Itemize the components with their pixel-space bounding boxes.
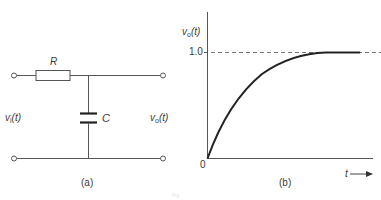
resistor-label: R (50, 57, 57, 67)
output-voltage-label: vo(t) (150, 113, 168, 124)
y-tick-1-label: 1.0 (189, 47, 203, 57)
rc-circuit (12, 71, 166, 162)
origin-label: 0 (200, 160, 206, 170)
y-axis-label: vo(t) (182, 27, 200, 38)
output-voltage-arg: (t) (159, 112, 168, 123)
input-terminal-bottom (12, 156, 17, 161)
output-terminal-bottom (161, 156, 166, 161)
step-response-plot (204, 12, 381, 177)
arrow-right-icon (366, 171, 373, 177)
capacitor-label: C (102, 113, 110, 124)
figure-caption: Fig. (172, 192, 180, 198)
panel-a-label: (a) (81, 178, 93, 188)
panel-b-label: (b) (279, 178, 291, 188)
input-terminal-top (12, 73, 17, 78)
y-axis-arg: (t) (191, 26, 200, 37)
output-terminal-top (161, 73, 166, 78)
input-voltage-label: vi(t) (5, 113, 21, 124)
resistor-symbol (36, 71, 70, 81)
input-voltage-arg: (t) (12, 112, 21, 123)
x-axis-label: t (345, 169, 348, 179)
response-curve (208, 53, 361, 159)
